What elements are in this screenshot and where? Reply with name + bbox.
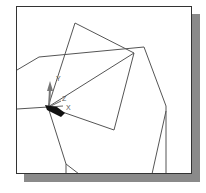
lower-edge-polyline[interactable] — [48, 107, 66, 173]
3d-graphics-viewport[interactable]: Y Z X — [16, 6, 192, 174]
diagonal-line[interactable] — [48, 53, 134, 107]
wireframe-drawing: Y Z X — [17, 7, 191, 173]
y-axis-label: Y — [56, 75, 61, 82]
y-axis-arrow-icon — [47, 81, 53, 91]
z-axis-label: Z — [62, 95, 67, 102]
upper-edge-polyline[interactable] — [17, 47, 166, 173]
left-horizontal-line[interactable] — [17, 107, 48, 109]
x-axis-arrow-icon — [45, 105, 65, 117]
coordinate-triad: Y Z X — [45, 75, 71, 117]
lower-diagonal-line[interactable] — [66, 164, 79, 173]
x-axis-label: X — [66, 104, 71, 111]
right-edge-line[interactable] — [152, 111, 166, 173]
